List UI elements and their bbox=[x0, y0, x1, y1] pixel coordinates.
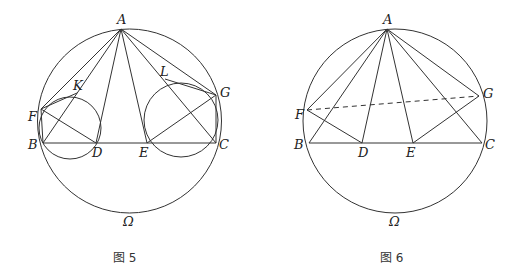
label-omega: Ω bbox=[388, 214, 400, 229]
label-f: F bbox=[294, 107, 305, 122]
segment-ge bbox=[413, 96, 479, 143]
label-e: E bbox=[138, 145, 149, 160]
figure-6: A B C D E F G Ω 图 6 bbox=[293, 12, 495, 265]
label-g: G bbox=[483, 86, 493, 101]
segment-ac bbox=[121, 29, 216, 143]
segment-lg bbox=[165, 79, 216, 95]
label-l: L bbox=[159, 64, 169, 79]
segment-ab bbox=[309, 29, 387, 143]
caption-figure-6: 图 6 bbox=[380, 251, 403, 265]
label-f: F bbox=[27, 109, 38, 124]
circumcircle-omega bbox=[303, 29, 487, 213]
label-a: A bbox=[116, 12, 126, 27]
label-d: D bbox=[357, 145, 369, 160]
label-g: G bbox=[220, 85, 230, 100]
label-a: A bbox=[382, 12, 392, 27]
circle-ecgl bbox=[144, 83, 218, 157]
label-c: C bbox=[219, 137, 229, 152]
segment-ae bbox=[121, 29, 147, 143]
segment-ad bbox=[96, 29, 121, 143]
label-omega: Ω bbox=[122, 214, 134, 229]
caption-figure-5-visible: 图 5 bbox=[113, 251, 136, 265]
geometry-figures: A B C D E F G K L Ω 图 5 图 5 A B C D bbox=[0, 0, 514, 274]
segment-fd bbox=[41, 109, 96, 143]
label-b: B bbox=[27, 137, 38, 152]
segment-ac bbox=[387, 29, 482, 143]
segment-fd bbox=[307, 110, 362, 143]
label-c: C bbox=[485, 137, 495, 152]
figure-5: A B C D E F G K L Ω 图 5 图 5 bbox=[27, 12, 230, 265]
label-d: D bbox=[91, 145, 103, 160]
segment-ag bbox=[387, 29, 479, 96]
label-k: K bbox=[72, 78, 84, 93]
label-e: E bbox=[405, 145, 416, 160]
segment-ae bbox=[387, 29, 413, 143]
circumcircle-omega bbox=[38, 29, 222, 213]
segment-ad bbox=[362, 29, 387, 143]
label-b: B bbox=[293, 137, 304, 152]
